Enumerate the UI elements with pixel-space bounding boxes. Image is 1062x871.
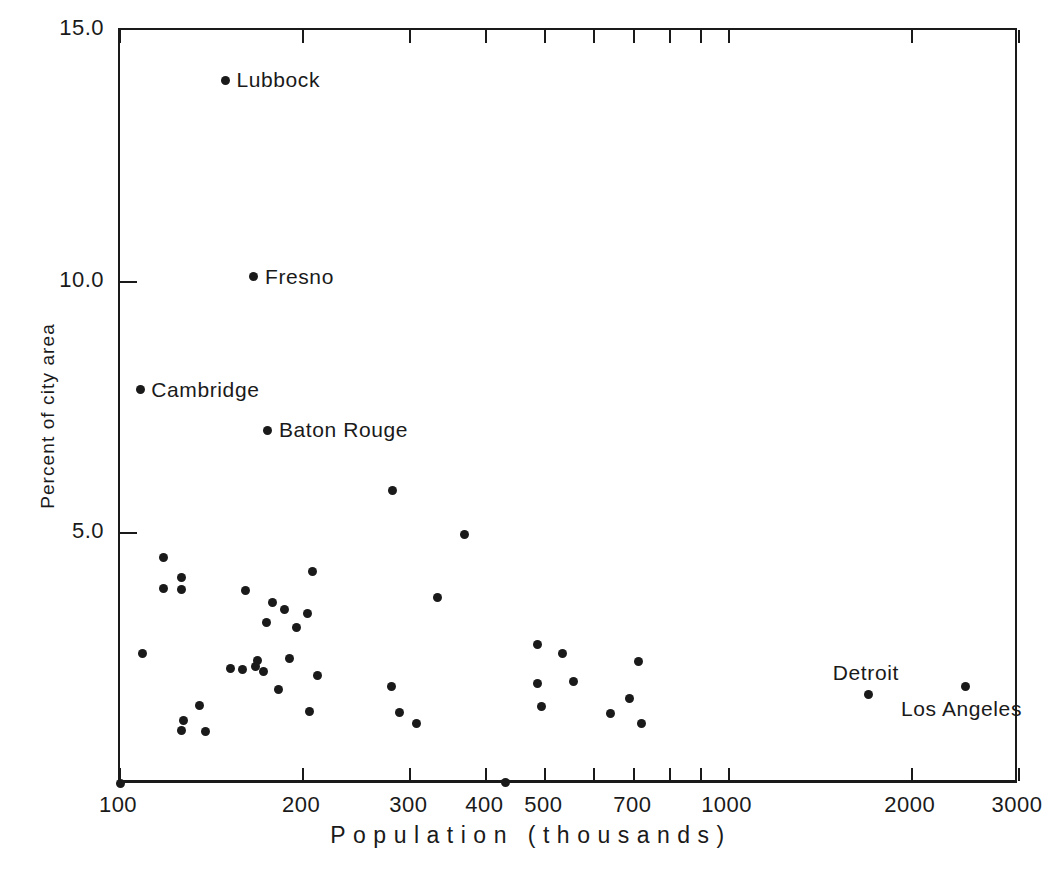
- data-point: [625, 694, 634, 703]
- data-point-labeled: [864, 690, 873, 699]
- x-tick-top: [700, 30, 702, 43]
- data-point: [195, 701, 204, 710]
- x-tick-top: [302, 30, 304, 43]
- y-tick-label-text: 10.0: [59, 267, 104, 293]
- x-axis-title: Population (thousands): [0, 822, 1062, 849]
- data-point: [533, 679, 542, 688]
- data-point: [159, 584, 168, 593]
- data-point: [201, 727, 210, 736]
- data-point-labeled: [136, 385, 145, 394]
- data-point: [262, 618, 271, 627]
- x-tick-bottom: [1018, 768, 1020, 781]
- data-point: [637, 719, 646, 728]
- plot-area: LubbockFresnoCambridgeBaton RougeDetroit…: [118, 28, 1017, 783]
- data-point: [606, 709, 615, 718]
- data-point-label: Detroit: [833, 661, 899, 685]
- data-point: [460, 530, 469, 539]
- data-point-labeled: [221, 76, 230, 85]
- y-tick-label-text: 5.0: [72, 518, 104, 544]
- x-tick-top: [119, 30, 121, 43]
- x-tick-top: [633, 30, 635, 43]
- y-tick-label-text: 15.0: [59, 15, 104, 41]
- x-tick-bottom: [593, 768, 595, 781]
- data-point: [305, 707, 314, 716]
- data-point: [569, 677, 578, 686]
- data-point-labeled: [961, 682, 970, 691]
- data-point: [177, 726, 186, 735]
- data-point: [268, 598, 277, 607]
- data-point: [241, 586, 250, 595]
- data-point-labeled: [263, 426, 272, 435]
- x-tick-label: 200: [282, 792, 320, 818]
- x-tick-top: [544, 30, 546, 43]
- data-point: [303, 609, 312, 618]
- data-point: [308, 567, 317, 576]
- x-tick-bottom: [119, 768, 121, 781]
- data-point: [501, 778, 510, 787]
- x-tick-label: 1000: [701, 792, 752, 818]
- y-tick: [120, 532, 137, 534]
- x-tick-bottom: [302, 768, 304, 781]
- x-tick-label: 500: [524, 792, 562, 818]
- x-tick-bottom: [669, 768, 671, 781]
- x-tick-label: 300: [389, 792, 427, 818]
- x-tick-bottom: [728, 768, 730, 781]
- x-tick-bottom: [700, 768, 702, 781]
- x-tick-bottom: [544, 768, 546, 781]
- data-point: [238, 665, 247, 674]
- x-tick-top: [669, 30, 671, 43]
- data-point: [533, 640, 542, 649]
- data-point: [177, 573, 186, 582]
- data-point: [138, 649, 147, 658]
- x-tick-label: 400: [465, 792, 503, 818]
- data-point-label: Fresno: [265, 265, 334, 289]
- data-point: [116, 779, 125, 788]
- data-point: [395, 708, 404, 717]
- data-point: [537, 702, 546, 711]
- x-tick-bottom: [633, 768, 635, 781]
- data-point: [285, 654, 294, 663]
- x-tick-top: [485, 30, 487, 43]
- x-tick-bottom: [409, 768, 411, 781]
- x-tick-top: [1018, 30, 1020, 43]
- x-tick-top: [409, 30, 411, 43]
- x-tick-label: 2000: [884, 792, 935, 818]
- data-point: [226, 664, 235, 673]
- x-tick-bottom: [485, 768, 487, 781]
- data-point-label: Cambridge: [151, 378, 259, 402]
- data-point-label: Lubbock: [236, 68, 320, 92]
- data-point-label: Baton Rouge: [279, 418, 408, 442]
- y-axis-title: Percent of city area: [37, 116, 59, 716]
- x-tick-label: 100: [99, 792, 137, 818]
- x-tick-top: [593, 30, 595, 43]
- data-point: [412, 719, 421, 728]
- x-tick-top: [911, 30, 913, 43]
- data-point: [433, 593, 442, 602]
- y-tick: [120, 281, 137, 283]
- x-tick-label: 3000: [992, 792, 1043, 818]
- x-tick-top: [728, 30, 730, 43]
- data-point: [313, 671, 322, 680]
- data-point: [177, 585, 186, 594]
- data-point: [292, 623, 301, 632]
- data-point: [159, 553, 168, 562]
- data-point: [179, 716, 188, 725]
- data-point: [387, 682, 396, 691]
- x-tick-bottom: [911, 768, 913, 781]
- data-point: [388, 486, 397, 495]
- x-tick-label: 700: [613, 792, 651, 818]
- data-point-labeled: [249, 272, 258, 281]
- scatter-chart-figure: Percent of city area 15.010.05.0 Lubbock…: [0, 0, 1062, 871]
- data-point-label: Los Angeles: [901, 697, 1022, 721]
- data-point: [634, 657, 643, 666]
- data-point: [280, 605, 289, 614]
- data-point: [558, 649, 567, 658]
- data-point: [274, 685, 283, 694]
- data-point: [259, 667, 268, 676]
